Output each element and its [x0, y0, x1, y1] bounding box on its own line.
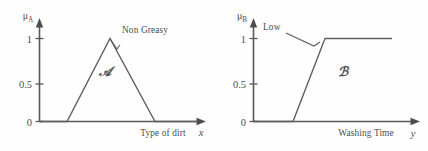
- x-axis-caption: Washing Time: [338, 128, 394, 138]
- y-axis-arrowhead: [250, 18, 257, 28]
- y-axis-arrowhead: [36, 18, 43, 28]
- y-tick-label-0: 0: [27, 117, 32, 128]
- chart-panel-non-greasy: 1 0.5 0 μA Non Greasy 𝒜 Type of dirt x: [0, 0, 214, 151]
- callout-leader-low: [286, 33, 320, 46]
- y-tick-label-0: 0: [241, 117, 246, 128]
- membership-curve-low: [254, 39, 393, 122]
- x-axis-variable: y: [410, 128, 416, 139]
- callout-label-non-greasy: Non Greasy: [122, 25, 168, 35]
- y-tick-label-0-5: 0.5: [19, 79, 32, 90]
- callout-label-low: Low: [263, 22, 281, 32]
- x-axis-variable: x: [198, 127, 204, 138]
- y-tick-label-1: 1: [241, 34, 246, 45]
- y-axis-label: μA: [23, 10, 34, 24]
- y-axis-label-subscript: B: [242, 16, 247, 24]
- x-axis-arrowhead: [411, 118, 421, 125]
- membership-curve-non-greasy: [40, 39, 199, 122]
- fuzzy-set-label-b: ℬ: [338, 64, 350, 79]
- membership-function-figure: 1 0.5 0 μA Non Greasy 𝒜 Type of dirt x: [0, 0, 428, 151]
- x-axis-caption: Type of dirt: [140, 128, 186, 138]
- y-axis-label-subscript: A: [28, 16, 34, 24]
- y-axis-label: μB: [237, 10, 247, 24]
- y-tick-label-0-5: 0.5: [233, 79, 246, 90]
- fuzzy-set-label-a: 𝒜: [98, 64, 116, 79]
- chart-panel-low: 1 0.5 0 μB Low ℬ Washing Time y: [214, 0, 428, 151]
- y-tick-label-1: 1: [27, 34, 32, 45]
